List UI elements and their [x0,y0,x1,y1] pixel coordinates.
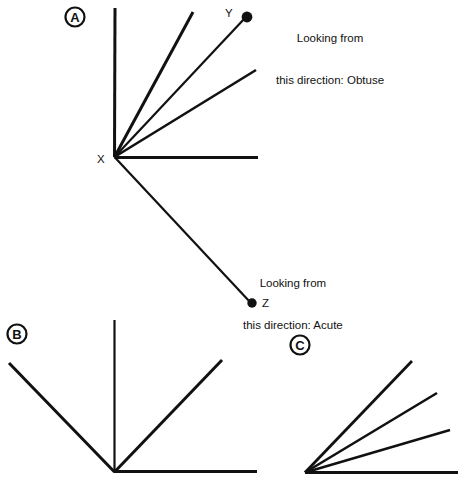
panel-b: B [8,320,258,472]
vertex-x-label: X [97,153,105,165]
point-y-label: Y [225,7,233,19]
panel-a-ray-vertical-up [115,8,116,157]
caption-obtuse: Looking from this direction: Obtuse [276,3,384,115]
point-y-dot [242,12,253,23]
caption-obtuse-line2: this direction: Obtuse [276,73,384,87]
figure-svg: X Y Z A B C [0,0,465,479]
caption-obtuse-line1: Looking from [276,31,384,45]
panel-a: X Y Z A [66,7,270,309]
panel-a-ray-to-z [115,157,251,302]
caption-acute-line2: this direction: Acute [243,318,343,332]
caption-acute-line1: Looking from [243,276,343,290]
panel-b-ray-upper-left [9,363,115,472]
panel-b-label: B [12,327,21,342]
panel-a-label: A [70,10,80,25]
panel-b-ray-upper-right [115,360,223,472]
figure-root: X Y Z A B C Looking from this directi [0,0,465,479]
caption-acute: Looking from this direction: Acute [243,248,343,360]
